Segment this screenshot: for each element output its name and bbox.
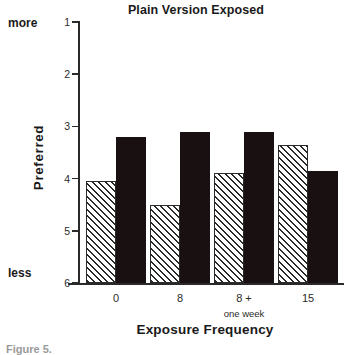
y-tick-label: 6 [56,277,70,289]
x-axis-label: Exposure Frequency [60,322,350,337]
y-tick-label: 5 [56,225,70,237]
bar-solid-2 [244,132,274,283]
bar-hatched-1 [150,205,180,283]
y-axis-label: Preferred [31,98,46,218]
x-tick-sublabel: one week [204,308,284,319]
x-tick-label: 8 [145,292,215,304]
x-axis-line [68,283,344,285]
bar-solid-0 [116,137,146,283]
bar-solid-3 [308,171,338,283]
bar-hatched-0 [86,181,116,283]
bar-hatched-3 [278,145,308,283]
plot-area [78,22,344,283]
y-anchor-less: less [8,266,31,280]
y-tick-label: 2 [56,68,70,80]
y-tick-label: 3 [56,120,70,132]
y-tick-label: 1 [56,16,70,28]
x-tick-label: 15 [273,292,343,304]
x-tick-label: 0 [81,292,151,304]
chart-title: Plain Version Exposed [0,3,360,17]
y-anchor-more: more [8,16,37,30]
figure-caption: Figure 5. [6,343,52,355]
x-tick-label: 8 + [209,292,279,304]
bar-solid-1 [180,132,210,283]
bar-hatched-2 [214,173,244,283]
y-tick-label: 4 [56,173,70,185]
